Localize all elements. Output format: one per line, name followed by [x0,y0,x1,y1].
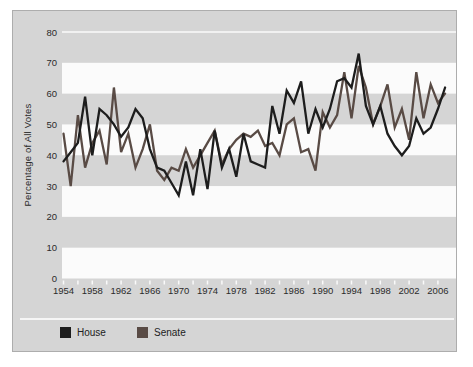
x-tick-label: 1982 [255,285,276,296]
x-minor-tick [106,281,108,285]
legend-separator [20,318,454,320]
x-minor-tick [77,281,79,285]
x-tick-label: 2006 [427,285,448,296]
x-minor-tick [380,281,382,285]
y-tick-label: 0 [52,273,57,284]
gridline-80 [62,31,456,32]
x-tick-label: 1998 [370,285,391,296]
background-band [62,186,456,217]
background-band [62,248,456,279]
y-tick-label: 50 [46,119,57,130]
x-axis-tick-labels: 1954195819621966197019741978198219861990… [0,285,473,299]
x-minor-tick [207,281,209,285]
y-tick-label: 30 [46,181,57,192]
x-minor-tick [408,281,410,285]
x-minor-tick [192,281,194,285]
x-minor-tick [437,281,439,285]
x-tick-label: 1978 [226,285,247,296]
x-minor-tick [63,281,65,285]
house-series-swatch [60,327,71,338]
legend-item-house: House [60,327,106,338]
x-minor-tick [135,281,137,285]
senate-legend-label: Senate [154,327,186,338]
figure: Percentage of All Votes 0102030405060708… [0,0,473,367]
x-minor-tick [236,281,238,285]
x-minor-tick [423,281,425,285]
x-tick-label: 1962 [111,285,132,296]
x-minor-tick [164,281,166,285]
house-legend-label: House [77,327,106,338]
legend-item-senate: Senate [137,327,186,338]
x-tick-label: 1970 [168,285,189,296]
x-minor-tick [221,281,223,285]
senate-series-swatch [137,327,148,338]
x-tick-label: 1986 [283,285,304,296]
x-tick-label: 1994 [341,285,362,296]
x-minor-tick [365,281,367,285]
x-minor-tick [293,281,295,285]
x-minor-tick [351,281,353,285]
x-tick-label: 2002 [399,285,420,296]
x-minor-tick [279,281,281,285]
x-minor-tick [250,281,252,285]
x-minor-tick [149,281,151,285]
background-band [62,63,456,94]
y-tick-label: 80 [46,27,57,38]
x-tick-label: 1958 [82,285,103,296]
y-tick-label: 20 [46,211,57,222]
x-tick-label: 1974 [197,285,218,296]
x-minor-tick [322,281,324,285]
x-minor-tick [92,281,94,285]
y-axis-tick-labels: 01020304050607080 [30,0,57,300]
y-tick-label: 40 [46,150,57,161]
x-minor-tick [336,281,338,285]
x-tick-label: 1966 [139,285,160,296]
y-tick-label: 70 [46,57,57,68]
y-tick-label: 10 [46,242,57,253]
x-minor-tick [308,281,310,285]
x-minor-tick [394,281,396,285]
x-tick-label: 1954 [53,285,74,296]
x-tick-label: 1990 [312,285,333,296]
x-minor-tick [120,281,122,285]
x-minor-tick [264,281,266,285]
plot-area [0,0,473,367]
x-minor-tick [178,281,180,285]
y-tick-label: 60 [46,88,57,99]
